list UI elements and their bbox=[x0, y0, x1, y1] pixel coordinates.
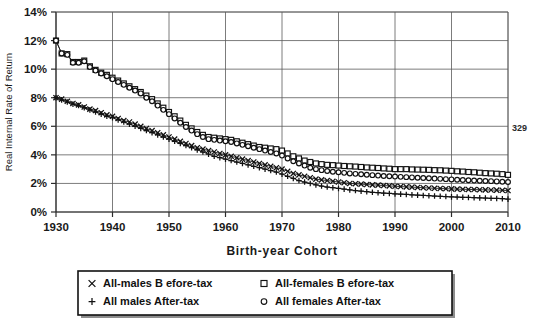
marker-circle bbox=[359, 172, 364, 177]
y-axis-title: Real Internal Rate of Return bbox=[3, 53, 14, 171]
marker-circle bbox=[364, 172, 369, 177]
marker-square bbox=[472, 170, 477, 175]
marker-circle bbox=[319, 168, 324, 173]
marker-circle bbox=[432, 176, 437, 181]
marker-circle bbox=[347, 171, 352, 176]
x-tick-label: 2000 bbox=[439, 221, 465, 233]
marker-circle bbox=[443, 177, 448, 182]
marker-square bbox=[313, 161, 318, 166]
legend-item: All females After-tax bbox=[261, 295, 382, 307]
page-number: 329 bbox=[512, 123, 527, 133]
marker-circle bbox=[82, 59, 87, 64]
marker-circle bbox=[370, 173, 375, 178]
marker-circle bbox=[59, 51, 64, 56]
marker-circle bbox=[217, 138, 222, 143]
marker-circle bbox=[234, 141, 239, 146]
marker-square bbox=[455, 169, 460, 174]
marker-circle bbox=[393, 174, 398, 179]
marker-square bbox=[421, 167, 426, 172]
marker-square bbox=[347, 164, 352, 169]
marker-circle bbox=[489, 179, 494, 184]
marker-circle bbox=[398, 174, 403, 179]
marker-square bbox=[353, 164, 358, 169]
marker-circle bbox=[404, 175, 409, 180]
marker-square bbox=[494, 171, 499, 176]
marker-square bbox=[415, 167, 420, 172]
marker-circle bbox=[184, 125, 189, 130]
marker-square bbox=[500, 172, 505, 177]
marker-circle bbox=[506, 180, 511, 185]
marker-circle bbox=[268, 150, 273, 155]
marker-circle bbox=[483, 179, 488, 184]
marker-circle bbox=[133, 88, 138, 93]
marker-circle bbox=[438, 176, 443, 181]
marker-circle bbox=[54, 38, 59, 43]
marker-square bbox=[438, 168, 443, 173]
x-axis-ticks: 193019401950196019701980199020002010 bbox=[43, 212, 521, 233]
marker-circle bbox=[257, 147, 262, 152]
marker-square bbox=[398, 167, 403, 172]
marker-circle bbox=[410, 175, 415, 180]
marker-circle bbox=[302, 163, 307, 168]
marker-circle bbox=[263, 148, 268, 153]
marker-square bbox=[342, 164, 347, 169]
x-tick-label: 2010 bbox=[495, 221, 521, 233]
marker-circle bbox=[427, 176, 432, 181]
marker-square bbox=[443, 168, 448, 173]
marker-circle bbox=[229, 140, 234, 145]
marker-circle bbox=[178, 120, 183, 125]
marker-circle bbox=[297, 161, 302, 166]
marker-square bbox=[409, 167, 414, 172]
marker-circle bbox=[477, 178, 482, 183]
marker-square bbox=[291, 154, 296, 159]
marker-circle bbox=[314, 167, 319, 172]
marker-circle bbox=[381, 174, 386, 179]
marker-square bbox=[483, 171, 488, 176]
marker-circle bbox=[104, 74, 109, 79]
marker-square bbox=[285, 151, 290, 156]
marker-circle bbox=[449, 177, 454, 182]
marker-square bbox=[308, 160, 313, 165]
x-tick-label: 1960 bbox=[213, 221, 239, 233]
legend-label: All-males B efore-tax bbox=[103, 277, 213, 289]
x-tick-label: 1940 bbox=[100, 221, 126, 233]
marker-circle bbox=[189, 128, 194, 133]
marker-circle bbox=[251, 145, 256, 150]
x-tick-label: 1950 bbox=[156, 221, 182, 233]
marker-square bbox=[460, 169, 465, 174]
marker-square bbox=[280, 148, 285, 153]
marker-square bbox=[466, 170, 471, 175]
y-tick-label: 0% bbox=[30, 206, 47, 218]
x-tick-label: 1980 bbox=[326, 221, 352, 233]
chart-figure: 0%2%4%6%8%10%12%14%193019401950196019701… bbox=[0, 0, 533, 322]
marker-square bbox=[489, 171, 494, 176]
marker-circle bbox=[206, 137, 211, 142]
y-tick-label: 2% bbox=[30, 177, 47, 189]
marker-square bbox=[449, 168, 454, 173]
marker-circle bbox=[330, 169, 335, 174]
marker-circle bbox=[500, 179, 505, 184]
y-tick-label: 10% bbox=[24, 63, 47, 75]
marker-circle bbox=[325, 169, 330, 174]
marker-circle bbox=[110, 77, 115, 82]
x-tick-label: 1970 bbox=[269, 221, 295, 233]
marker-circle bbox=[415, 175, 420, 180]
marker-circle bbox=[274, 151, 279, 156]
marker-circle bbox=[161, 107, 166, 112]
marker-square bbox=[381, 166, 386, 171]
legend-item: All males After-tax bbox=[89, 295, 200, 307]
x-tick-label: 1930 bbox=[43, 221, 69, 233]
marker-square bbox=[336, 163, 341, 168]
marker-circle bbox=[167, 112, 172, 117]
marker-square bbox=[477, 170, 482, 175]
marker-square bbox=[359, 165, 364, 170]
marker-circle bbox=[460, 178, 465, 183]
marker-square bbox=[506, 172, 511, 177]
marker-square bbox=[404, 167, 409, 172]
y-tick-label: 14% bbox=[24, 6, 47, 18]
marker-circle bbox=[93, 68, 98, 73]
marker-circle bbox=[246, 144, 251, 149]
legend-label: All males After-tax bbox=[103, 295, 200, 307]
marker-square bbox=[325, 162, 330, 167]
marker-circle bbox=[291, 159, 296, 164]
